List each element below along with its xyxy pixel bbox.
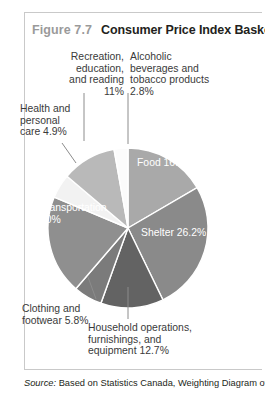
callout-household-operations: Household operations, furnishings, and e… — [88, 322, 216, 357]
callout-health-personal-care: Health and personal care 4.9% — [20, 103, 94, 138]
figure-header: Figure 7.7Consumer Price Index Basket — [32, 20, 260, 37]
figure-number: Figure 7.7 — [32, 23, 92, 37]
figure-top-rule — [24, 12, 262, 13]
figure-card: Figure 7.7Consumer Price Index Basket Re… — [0, 0, 265, 399]
source-label: Source: — [24, 378, 56, 388]
wedge-label-food: Food 16.6% — [137, 157, 193, 169]
leader-line-health — [62, 143, 76, 163]
pie-chart: Recreation, education, and reading 11% A… — [0, 37, 265, 367]
source-text: Based on Statistics Canada, Weighting Di… — [56, 378, 265, 388]
figure-bottom-rule — [24, 369, 262, 370]
wedge-label-shelter: Shelter 26.2% — [141, 227, 206, 239]
callout-recreation-education-reading: Recreation, education, and reading 11% — [46, 51, 124, 97]
wedge-label-transportation: Transportation 20% — [40, 202, 107, 225]
figure-title: Consumer Price Index Basket — [101, 23, 265, 37]
callout-alcoholic-beverages-tobacco: Alcoholic beverages and tobacco products… — [130, 51, 226, 97]
source-note: Source: Based on Statistics Canada, Weig… — [24, 378, 264, 389]
